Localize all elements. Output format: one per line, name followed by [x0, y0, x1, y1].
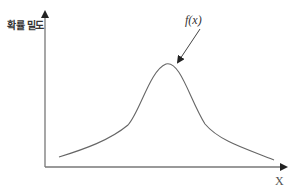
x-axis-label: X: [275, 174, 284, 189]
curve-label: f(x): [185, 13, 202, 28]
pointer-arrow: [178, 29, 200, 62]
density-curve: [59, 64, 274, 160]
y-axis-label: 확률 밀도: [7, 17, 44, 32]
